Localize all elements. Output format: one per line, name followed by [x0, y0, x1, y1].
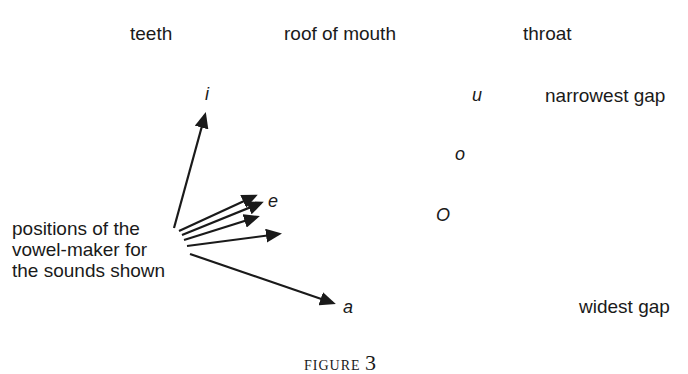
arrow-to-i	[174, 115, 205, 228]
arrow-to-a	[190, 254, 333, 303]
arrow-to-e-1	[179, 196, 255, 231]
caption-number: 3	[365, 350, 376, 374]
figure-caption: FIGURE 3	[304, 352, 376, 374]
caption-word: FIGURE	[304, 358, 361, 373]
